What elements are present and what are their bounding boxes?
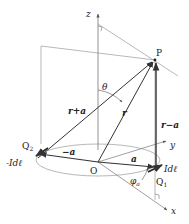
right-angle-mark-bottom bbox=[155, 194, 159, 199]
dipole-diagram: z y x P O θ r r+a r−a a −a Idℓ -Idℓ Q1 Q… bbox=[0, 0, 189, 224]
theta-label: θ bbox=[102, 82, 108, 92]
y-axis-label: y bbox=[169, 140, 176, 150]
perpendicular-line-z bbox=[98, 24, 178, 76]
point-p bbox=[154, 59, 157, 62]
point-p-label: P bbox=[156, 48, 162, 58]
vector-a bbox=[98, 162, 154, 167]
right-angle-mark-top bbox=[98, 26, 102, 31]
current-neg-label: -Idℓ bbox=[6, 158, 22, 168]
vector-a-label: a bbox=[131, 154, 137, 164]
phi-label: φa bbox=[130, 176, 140, 187]
current-pos-label: Idℓ bbox=[163, 164, 177, 174]
vector-r-plus-a-label: r+a bbox=[68, 106, 86, 116]
q1-label: Q1 bbox=[156, 177, 167, 188]
origin-label: O bbox=[90, 166, 97, 176]
x-axis-label: x bbox=[171, 206, 176, 216]
q2-label: Q2 bbox=[22, 141, 33, 152]
vector-neg-a-label: −a bbox=[62, 147, 76, 157]
vector-r-plus-a bbox=[38, 62, 152, 158]
vector-r-minus-a-label: r−a bbox=[161, 120, 179, 130]
z-axis-label: z bbox=[85, 9, 91, 19]
phi-arc bbox=[142, 168, 148, 180]
